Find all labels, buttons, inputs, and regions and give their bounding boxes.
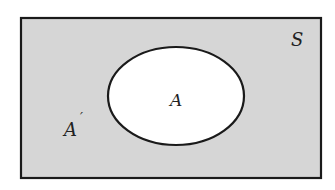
universe-label: S <box>291 29 303 50</box>
complement-prime-mark: ′ <box>80 110 83 125</box>
set-a-label: A <box>168 90 182 110</box>
complement-label: A <box>62 119 77 140</box>
venn-diagram: S A A ′ <box>0 0 335 190</box>
